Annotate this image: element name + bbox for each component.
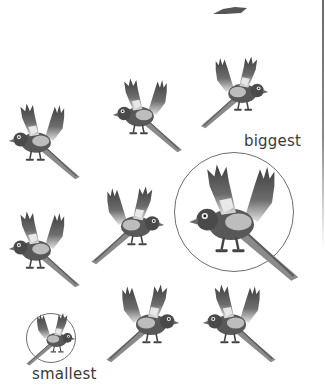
bird-row4-right — [202, 283, 282, 363]
bird-smallest — [22, 312, 76, 366]
bird-row3-left — [8, 210, 86, 288]
bird-row1-mid — [112, 77, 188, 153]
bird-biggest — [188, 162, 308, 282]
page-edge-line — [322, 0, 324, 250]
bird-row2-mid — [85, 185, 165, 265]
bird-row2-left — [8, 102, 86, 180]
bird-top-fragment — [213, 0, 247, 19]
bird-row1-right — [195, 55, 269, 129]
label-smallest: smallest — [32, 365, 96, 383]
label-biggest: biggest — [244, 132, 301, 150]
bird-row4-mid — [100, 283, 180, 363]
